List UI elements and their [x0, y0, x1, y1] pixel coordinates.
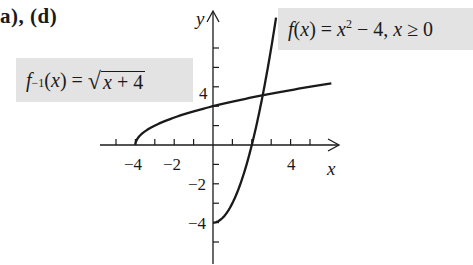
y-tick-label-neg4: −4	[188, 214, 207, 233]
sqrt-icon: √x + 4	[88, 70, 145, 92]
x-tick-label-neg2: −2	[163, 155, 181, 174]
finv-arg-var: x	[51, 69, 60, 92]
finv-radicand-var: x	[103, 71, 112, 93]
y-tick-label-4: 4	[199, 84, 208, 103]
f-cond-var: x	[393, 18, 402, 40]
curve-f	[213, 18, 276, 223]
y-axis-label: y	[194, 8, 205, 29]
f-condition: ≥ 0	[402, 18, 433, 40]
f-inverse-label-box: f−1(x) = √x + 4	[16, 58, 193, 102]
f-arg-var: x	[300, 18, 309, 40]
finv-arg-close: )	[60, 69, 67, 92]
f-arg-close: )	[309, 18, 316, 40]
f-label-box: f(x) = x2 − 4, x ≥ 0	[278, 8, 473, 50]
finv-equals: =	[67, 69, 88, 92]
f-equals: =	[316, 18, 337, 40]
finv-radicand-rest: + 4	[112, 71, 143, 93]
y-tick-label-neg2: −2	[188, 175, 206, 194]
finv-name: f	[26, 69, 32, 92]
x-tick-label-4: 4	[287, 155, 296, 174]
x-axis-label: x	[326, 158, 336, 179]
f-rest: − 4,	[352, 18, 393, 40]
f-var: x	[337, 18, 346, 40]
finv-arg-open: (	[44, 69, 51, 92]
x-tick-label-neg4: −4	[124, 155, 143, 174]
